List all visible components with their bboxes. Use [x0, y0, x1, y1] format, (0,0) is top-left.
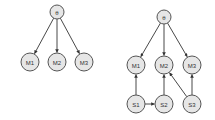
node-m1: M1	[127, 56, 145, 74]
node-m3: M3	[183, 56, 201, 74]
edge-root-to-m3	[168, 23, 188, 57]
node-label: M2	[53, 60, 62, 66]
edge-root-to-m3	[60, 18, 79, 53]
node-label: S3	[188, 102, 196, 108]
node-s3: S3	[183, 95, 201, 113]
node-m2: M2	[48, 53, 66, 71]
edge-root-to-m1	[35, 18, 54, 53]
edge-root-to-m1	[141, 23, 161, 57]
node-label: M1	[132, 63, 141, 69]
left-graph: θM1M2M3	[21, 5, 93, 71]
node-label: S2	[160, 102, 168, 108]
right-graph: θM1M2M3S1S2S3	[127, 10, 201, 113]
node-label: M3	[188, 63, 197, 69]
node-label: S1	[132, 102, 140, 108]
node-label: M1	[26, 60, 35, 66]
node-label: M3	[80, 60, 89, 66]
node-root: θ	[157, 10, 171, 24]
node-label: M2	[160, 63, 169, 69]
edge-s3-to-m2	[170, 73, 187, 97]
left-graph-edges	[35, 18, 80, 53]
node-s2: S2	[155, 95, 173, 113]
node-m3: M3	[75, 53, 93, 71]
node-m2: M2	[155, 56, 173, 74]
node-m1: M1	[21, 53, 39, 71]
node-root: θ	[50, 5, 64, 19]
diagram-canvas: θM1M2M3 θM1M2M3S1S2S3	[0, 0, 215, 120]
node-s1: S1	[127, 95, 145, 113]
